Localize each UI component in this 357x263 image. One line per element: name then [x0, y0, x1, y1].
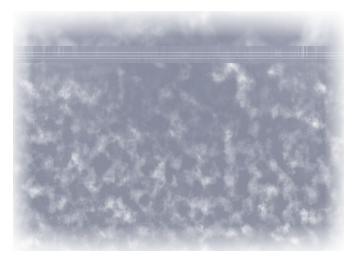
crackle-texture-svg [13, 11, 344, 251]
bottom-edge-fade [13, 225, 344, 251]
photograph-crackle-texture [13, 11, 344, 251]
right-edge-fade [324, 11, 344, 251]
vignette-edge-softening [13, 11, 344, 251]
page-root: Close-up photograph of a white crackled … [0, 0, 357, 263]
left-edge-fade [13, 11, 33, 251]
top-edge-fade [13, 11, 344, 37]
